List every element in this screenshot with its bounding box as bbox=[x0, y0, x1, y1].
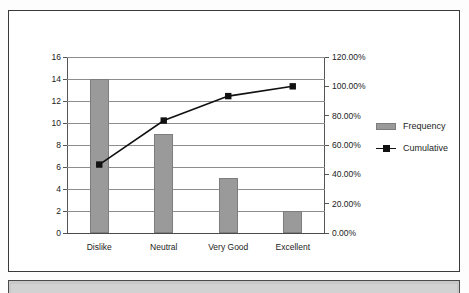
cumulative-marker-dislike bbox=[96, 161, 102, 167]
plot-area: 0246810121416 0.00%20.00%40.00%60.00%80.… bbox=[67, 57, 325, 233]
legend-item-cumulative[interactable]: Cumulative bbox=[376, 140, 462, 156]
right-tick-mark bbox=[325, 115, 329, 116]
cumulative-line bbox=[99, 86, 293, 164]
left-axis-tick-label: 16 bbox=[52, 52, 61, 62]
left-axis-tick-label: 10 bbox=[52, 118, 61, 128]
legend-item-frequency[interactable]: Frequency bbox=[376, 118, 462, 134]
lower-panel bbox=[8, 280, 460, 293]
chart-page: 0246810121416 0.00%20.00%40.00%60.00%80.… bbox=[0, 0, 469, 293]
right-axis-tick-label: 100.00% bbox=[332, 81, 366, 91]
line-marker-swatch-icon bbox=[376, 144, 396, 153]
right-axis-tick-label: 40.00% bbox=[332, 169, 361, 179]
right-tick-mark bbox=[325, 145, 329, 146]
left-axis-tick-label: 14 bbox=[52, 74, 61, 84]
cumulative-marker-neutral bbox=[161, 117, 167, 123]
right-axis-tick-label: 20.00% bbox=[332, 199, 361, 209]
right-tick-mark bbox=[325, 203, 329, 204]
legend-square-marker-icon bbox=[383, 145, 390, 152]
right-tick-mark bbox=[325, 233, 329, 234]
right-tick-mark bbox=[325, 57, 329, 58]
category-label-very-good: Very Good bbox=[208, 242, 248, 252]
right-axis-tick-label: 60.00% bbox=[332, 140, 361, 150]
chart-legend: Frequency Cumulative bbox=[376, 118, 462, 162]
bar-swatch-icon bbox=[376, 123, 396, 130]
cumulative-marker-very-good bbox=[225, 93, 231, 99]
cumulative-marker-excellent bbox=[290, 83, 296, 89]
category-label-dislike: Dislike bbox=[87, 242, 112, 252]
right-axis-tick-label: 120.00% bbox=[332, 52, 366, 62]
right-axis-tick-label: 0.00% bbox=[332, 228, 356, 238]
category-label-neutral: Neutral bbox=[150, 242, 177, 252]
left-axis-tick-label: 6 bbox=[56, 162, 61, 172]
legend-label-cumulative: Cumulative bbox=[403, 143, 448, 153]
category-label-excellent: Excellent bbox=[276, 242, 311, 252]
left-axis-tick-label: 4 bbox=[56, 184, 61, 194]
line-series-cumulative bbox=[67, 57, 325, 233]
legend-label-frequency: Frequency bbox=[403, 121, 446, 131]
left-axis-tick-label: 8 bbox=[56, 140, 61, 150]
right-tick-mark bbox=[325, 86, 329, 87]
left-axis-tick-label: 12 bbox=[52, 96, 61, 106]
right-axis-tick-label: 80.00% bbox=[332, 111, 361, 121]
left-axis-tick-label: 0 bbox=[56, 228, 61, 238]
right-tick-mark bbox=[325, 174, 329, 175]
lower-panel-fill bbox=[11, 284, 457, 293]
left-axis-tick-label: 2 bbox=[56, 206, 61, 216]
